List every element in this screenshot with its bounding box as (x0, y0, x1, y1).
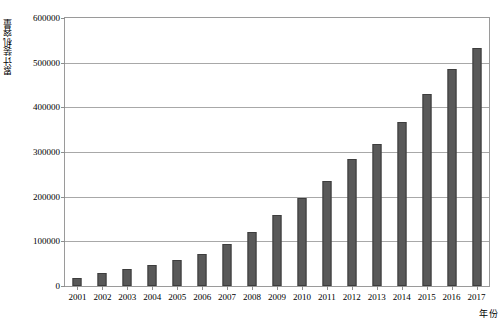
y-tick-label: 100000 (33, 237, 60, 246)
x-tick-mark (227, 286, 228, 290)
x-tick-label: 2012 (343, 292, 361, 302)
x-tick-mark (127, 286, 128, 290)
bar-slot (439, 18, 464, 286)
bar[interactable] (98, 273, 107, 286)
bar-slot (240, 18, 265, 286)
x-tick-label: 2016 (443, 292, 461, 302)
x-axis-title: 年份 (0, 309, 498, 319)
y-tick-mark (61, 286, 65, 287)
y-tick-label: 600000 (33, 14, 60, 23)
bar[interactable] (123, 269, 132, 286)
bar[interactable] (148, 265, 157, 286)
bar-slot (265, 18, 290, 286)
x-tick-label: 2013 (368, 292, 386, 302)
x-tick-label: 2017 (468, 292, 486, 302)
bar-slot (90, 18, 115, 286)
bar-slot (364, 18, 389, 286)
bar-slot (389, 18, 414, 286)
bar[interactable] (272, 215, 281, 286)
x-tick-mark (102, 286, 103, 290)
bar[interactable] (447, 69, 456, 286)
bar-slot (65, 18, 90, 286)
x-tick-mark (327, 286, 328, 290)
bar[interactable] (173, 260, 182, 286)
bar-slot (464, 18, 489, 286)
x-tick-mark (252, 286, 253, 290)
bar[interactable] (322, 181, 331, 286)
bar[interactable] (422, 94, 431, 286)
bar-slot (289, 18, 314, 286)
bar[interactable] (223, 244, 232, 286)
bar[interactable] (198, 254, 207, 286)
x-tick-label: 2014 (393, 292, 411, 302)
y-tick-label: 200000 (33, 192, 60, 201)
bar[interactable] (297, 198, 306, 286)
x-tick-label: 2005 (168, 292, 186, 302)
x-tick-mark (352, 286, 353, 290)
bars-layer (65, 18, 489, 286)
x-tick-label: 2006 (193, 292, 211, 302)
bar[interactable] (372, 144, 381, 286)
bar[interactable] (347, 159, 356, 286)
y-tick-label: 0 (56, 282, 61, 291)
bar-slot (115, 18, 140, 286)
bar-slot (215, 18, 240, 286)
x-tick-label: 2003 (118, 292, 136, 302)
x-tick-label: 2015 (418, 292, 436, 302)
x-tick-mark (202, 286, 203, 290)
x-tick-mark (277, 286, 278, 290)
x-tick-mark (152, 286, 153, 290)
bar-chart: 累计装机容量 010000020000030000040000050000060… (0, 0, 504, 321)
x-tick-mark (77, 286, 78, 290)
y-axis-title: 累计装机容量 (2, 18, 16, 75)
x-tick-label: 2009 (268, 292, 286, 302)
bar-slot (165, 18, 190, 286)
x-tick-mark (177, 286, 178, 290)
bar[interactable] (397, 122, 406, 286)
x-tick-mark (302, 286, 303, 290)
x-tick-mark (427, 286, 428, 290)
x-tick-label: 2010 (293, 292, 311, 302)
x-tick-label: 2007 (218, 292, 236, 302)
x-tick-label: 2004 (143, 292, 161, 302)
bar-slot (314, 18, 339, 286)
y-tick-label: 400000 (33, 103, 60, 112)
x-tick-mark (377, 286, 378, 290)
y-tick-label: 500000 (33, 58, 60, 67)
x-tick-label: 2002 (93, 292, 111, 302)
bar[interactable] (248, 232, 257, 286)
x-tick-mark (402, 286, 403, 290)
x-tick-mark (452, 286, 453, 290)
bar-slot (140, 18, 165, 286)
plot-area: 0100000200000300000400000500000600000 20… (64, 17, 490, 287)
bar[interactable] (472, 48, 481, 286)
x-tick-label: 2008 (243, 292, 261, 302)
bar-slot (414, 18, 439, 286)
bar-slot (339, 18, 364, 286)
x-tick-mark (477, 286, 478, 290)
x-tick-label: 2001 (68, 292, 86, 302)
bar[interactable] (73, 278, 82, 286)
x-tick-label: 2011 (318, 292, 336, 302)
bar-slot (190, 18, 215, 286)
y-tick-label: 300000 (33, 148, 60, 157)
